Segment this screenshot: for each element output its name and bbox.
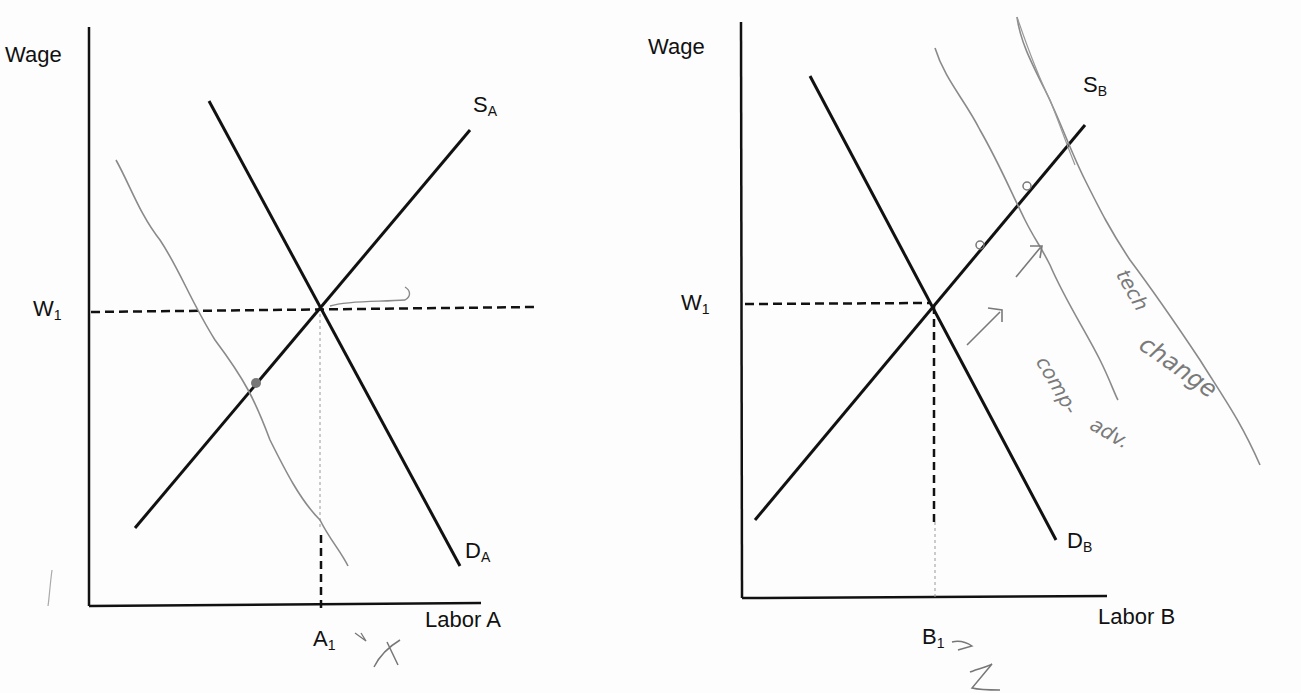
demand-label-b: DB [1067,530,1092,554]
supply-curve-b [755,125,1085,520]
demand-label-b-main: D [1067,528,1083,553]
supply-label-a-sub: A [488,103,497,119]
pencil-arrow-b1 [952,641,972,650]
demand-label-b-sub: B [1083,539,1092,555]
pencil-arrow-a [330,287,410,306]
y-axis-label-a: Wage [5,44,62,66]
qty-a1-label: A1 [313,628,335,652]
supply-curve-a [135,130,470,528]
pencil-arrow-a1 [355,633,366,641]
wage-w1-label-a: W1 [33,298,62,322]
x-axis-label-a: Labor A [425,609,501,631]
arrow-tech-icon [1016,246,1042,277]
margin-pencil-mark [48,570,52,606]
x-axis-a [89,603,481,606]
pencil-x-mark [374,640,400,667]
supply-label-a: SA [473,94,497,118]
wage-w1-b-sub: 1 [702,301,710,317]
qty-a1-sub: 1 [328,637,336,653]
wage-w1-a-main: W [33,296,54,321]
wage-w1-dashed-a [91,307,535,312]
qty-b1-sub: 1 [937,635,945,651]
arrow-compadv-icon [967,308,1002,345]
intersection-dot-a [251,378,261,388]
diagram-canvas [0,0,1301,693]
y-axis-label-b: Wage [648,36,705,58]
wage-w1-b-main: W [681,290,702,315]
pencil-z-mark [970,664,1000,690]
intersection-dot-b2 [1023,182,1031,190]
wage-w1-a-sub: 1 [54,307,62,323]
demand-curve-a [209,101,460,566]
x-axis-label-b: Labor B [1098,606,1175,628]
demand-label-a: DA [465,540,490,564]
demand-label-a-sub: A [481,549,490,565]
qty-a1-main: A [313,626,328,651]
qty-b1-main: B [922,624,937,649]
supply-label-a-main: S [473,92,488,117]
y-axis-b [741,22,742,598]
qty-b1-label: B1 [922,626,944,650]
supply-label-b: SB [1083,74,1107,98]
graph-labor-a [89,27,535,667]
supply-shift-pencil-a [116,160,348,566]
supply-label-b-main: S [1083,72,1098,97]
x-axis-b [742,596,1107,598]
wage-w1-dashed-b [745,303,930,304]
demand-shift-compadv-pencil [935,48,1118,400]
demand-label-a-main: D [465,538,481,563]
wage-w1-label-b: W1 [681,292,710,316]
supply-label-b-sub: B [1098,83,1107,99]
pencil-double-line [1017,17,1075,165]
